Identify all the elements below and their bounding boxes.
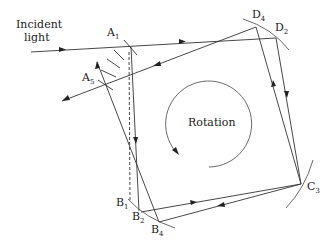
label-b4: B4 [151,223,164,238]
rotation-label: Rotation [188,116,236,129]
mirror-a1 [124,40,137,55]
hatch-1 [114,50,124,60]
arrow-return-mid [153,61,161,66]
beam-b4-a5 [97,62,159,222]
beam-c3-b2 [141,184,301,212]
arrow-incident [59,47,66,52]
arrow-b2-c3 [190,200,197,205]
hatch-2 [107,59,120,68]
label-d2: D2 [275,21,288,36]
label-b1: B1 [116,196,129,211]
arrow-return-out [62,95,70,101]
label-d4: D4 [252,8,266,23]
label-a5: A5 [81,71,94,86]
beam-c3-b4 [159,184,301,222]
dashed-a1-b1 [129,52,130,200]
incident-label-line1: Incident [16,18,63,31]
label-c3: C3 [307,180,320,195]
beam-a1-b2 [131,47,139,211]
hatch-3 [101,70,116,77]
arrow-b4-up [95,61,100,69]
incident-beam [31,38,276,52]
label-a1: A1 [106,26,119,41]
incident-label-line2: light [24,31,50,44]
ring-laser-diagram: Incident light Rotation A1 A5 D4 D2 C3 B… [0,0,336,249]
